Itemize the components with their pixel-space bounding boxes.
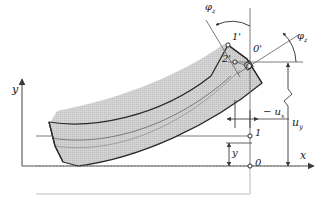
label-dimension-uy: uy (292, 117, 303, 131)
label-node-0: 0 (255, 158, 261, 168)
label-dimension-y: y (232, 148, 238, 158)
node-1-marker (248, 134, 252, 138)
figure-canvas: φz φz 1' 2' 0' 1 0 − ux uy y y x (0, 0, 330, 204)
label-phi-z-right: φz (297, 31, 307, 43)
angle-arc-phi-z-top (216, 21, 250, 26)
label-x-axis: x (300, 150, 306, 161)
node-1p-marker (226, 43, 230, 47)
dimension-y-small (226, 143, 252, 166)
label-phi-z-top: φz (205, 2, 215, 14)
label-y-axis: y (12, 84, 18, 95)
baseline-bracket (36, 166, 250, 194)
beam-diagram-svg (0, 0, 330, 204)
label-dimension-ux: − ux (263, 107, 285, 119)
label-node-0-deformed: 0' (253, 44, 262, 54)
dimension-uy (284, 63, 292, 166)
label-node-1-deformed: 1' (232, 32, 241, 42)
node-0-marker (248, 164, 252, 168)
label-node-1: 1 (255, 128, 261, 138)
label-node-2-deformed: 2' (222, 54, 231, 64)
